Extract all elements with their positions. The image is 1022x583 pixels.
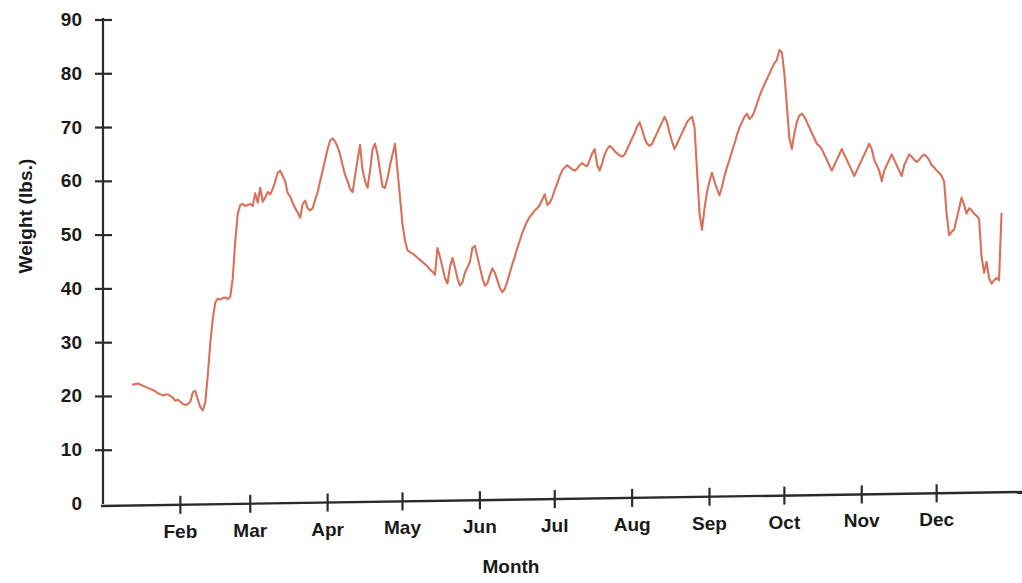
x-tick-label-Nov: Nov [822,511,902,530]
x-axis-line [101,492,1022,506]
y-tick-label-0: 0 [28,494,82,513]
chart-container: 0102030405060708090 FebMarAprMayJunJulAu… [0,0,1022,583]
y-tick-label-20: 20 [28,386,82,405]
x-tick-label-May: May [363,518,443,537]
data-line-weight [133,50,1002,410]
y-tick-label-90: 90 [28,10,82,29]
x-tick-label-Sep: Sep [670,514,750,533]
x-tick-label-Apr: Apr [288,520,368,539]
x-tick-label-Dec: Dec [897,510,977,529]
x-tick-label-Mar: Mar [210,521,290,540]
x-axis-title: Month [0,556,1022,578]
axis-lines [101,18,1022,506]
x-tick-label-Aug: Aug [592,515,672,534]
x-tick-label-Feb: Feb [140,522,220,541]
line-chart-plot [0,0,1022,583]
y-tick-label-80: 80 [28,64,82,83]
y-axis-title: Weight (lbs.) [15,126,37,306]
x-tick-label-Jul: Jul [515,516,595,535]
x-tick-label-Oct: Oct [744,513,824,532]
y-tick-label-30: 30 [28,333,82,352]
x-tick-label-Jun: Jun [440,517,520,536]
y-tick-label-10: 10 [28,440,82,459]
